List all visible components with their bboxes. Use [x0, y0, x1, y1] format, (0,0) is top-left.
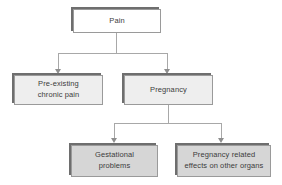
node-pregnancy-related-effects[interactable]: Pregnancy related effects on other organ…	[177, 145, 271, 177]
node-pregnancy-related-effects-label: Pregnancy related effects on other organ…	[185, 150, 264, 172]
connector-pain-to-pre-existing	[58, 53, 59, 70]
node-pre-existing-chronic-pain-label: Pre-existing chronic pain	[38, 79, 80, 101]
node-pregnancy[interactable]: Pregnancy	[124, 75, 213, 105]
node-pregnancy-label: Pregnancy	[150, 85, 187, 96]
node-gestational-problems[interactable]: Gestational problems	[71, 145, 158, 177]
node-pain-label: Pain	[109, 16, 124, 27]
arrowhead-gestational-icon	[111, 138, 117, 143]
node-gestational-problems-label: Gestational problems	[95, 150, 134, 172]
node-pain[interactable]: Pain	[73, 9, 161, 33]
connector-pain-to-pregnancy	[167, 53, 168, 70]
connector-pain-stem	[116, 33, 117, 53]
connector-pregnancy-to-gestational	[114, 123, 115, 139]
connector-pregnancy-bus	[114, 123, 222, 124]
arrowhead-pre-existing-icon	[55, 69, 61, 74]
connector-pregnancy-stem	[168, 105, 169, 123]
arrowhead-effects-icon	[218, 138, 224, 143]
node-pre-existing-chronic-pain[interactable]: Pre-existing chronic pain	[14, 75, 103, 105]
connector-pain-bus	[58, 53, 168, 54]
flow-chart-diagram: Pain Pre-existing chronic pain Pregnancy…	[0, 0, 282, 185]
connector-pregnancy-to-effects	[221, 123, 222, 139]
arrowhead-pregnancy-icon	[164, 69, 170, 74]
